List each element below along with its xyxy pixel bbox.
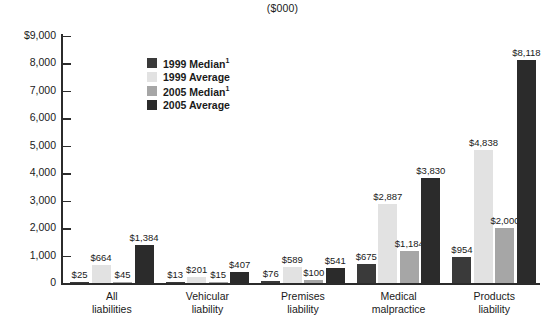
y-axis-label: 7,000 (2, 84, 56, 96)
legend-label: 1999 Average (163, 71, 230, 83)
bar-column: $4,838 (474, 36, 493, 283)
bar-value-label: $589 (282, 254, 303, 265)
bar-column: $541 (326, 36, 345, 283)
x-axis-category-line: liability (248, 303, 358, 316)
bar: $3,830 (421, 178, 440, 283)
bar-value-label: $675 (356, 251, 377, 262)
x-axis-category-label: Allliabilities (57, 290, 167, 315)
chart-title: ($000) (0, 2, 551, 14)
bar: $675 (357, 264, 376, 283)
bar: $76 (261, 281, 280, 283)
bar-column: $25 (70, 36, 89, 283)
bar-value-label: $954 (451, 244, 472, 255)
y-axis-label: 0 (2, 276, 56, 288)
bar: $45 (113, 282, 132, 284)
bar-column: $2,000 (495, 36, 514, 283)
bar-value-label: $201 (186, 264, 207, 275)
bar-column: $45 (113, 36, 132, 283)
bar: $664 (92, 265, 111, 283)
bar-column: $675 (357, 36, 376, 283)
bar-column: $76 (261, 36, 280, 283)
bar-column: $407 (230, 36, 249, 283)
plot-area: $25$664$45$1,384$13$201$15$407$76$589$10… (62, 36, 540, 283)
bar-column: $589 (283, 36, 302, 283)
bar-value-label: $13 (167, 269, 183, 280)
legend-item: 1999 Average (147, 70, 230, 84)
legend-swatch-icon (147, 72, 157, 82)
y-axis-label: 4,000 (2, 166, 56, 178)
x-axis-category-line: Vehicular (152, 290, 262, 303)
x-axis-category-label: Premisesliability (248, 290, 358, 315)
chart-legend: 1999 Median11999 Average2005 Median12005… (147, 56, 230, 112)
bar-value-label: $2,887 (373, 191, 402, 202)
legend-item: 1999 Median1 (147, 56, 230, 70)
bar-value-label: $4,838 (469, 137, 498, 148)
bar: $201 (187, 277, 206, 283)
bar-value-label: $1,184 (395, 238, 424, 249)
bar: $25 (70, 282, 89, 284)
bar: $1,184 (400, 251, 419, 283)
bar: $13 (166, 282, 185, 284)
x-axis-line (61, 283, 540, 285)
legend-item: 2005 Average (147, 98, 230, 112)
bar-column: $664 (92, 36, 111, 283)
y-axis-label: 6,000 (2, 111, 56, 123)
bar: $541 (326, 268, 345, 283)
y-axis-label: 3,000 (2, 194, 56, 206)
bar-column: $8,118 (517, 36, 536, 283)
bar-column: $1,184 (400, 36, 419, 283)
x-axis-category-line: liability (439, 303, 549, 316)
y-axis-labels: $9,0008,0007,0006,0005,0004,0003,0002,00… (0, 0, 56, 326)
bar: $100 (304, 280, 323, 283)
bar: $8,118 (517, 60, 536, 283)
y-axis-label: $9,000 (2, 29, 56, 41)
bar-value-label: $3,830 (416, 165, 445, 176)
bar-value-label: $45 (115, 269, 131, 280)
bar-value-label: $664 (90, 252, 111, 263)
bar: $1,384 (135, 245, 154, 283)
legend-swatch-icon (147, 86, 157, 96)
legend-label: 2005 Average (163, 99, 230, 111)
bar-chart: ($000) $9,0008,0007,0006,0005,0004,0003,… (0, 0, 551, 326)
legend-swatch-icon (147, 100, 157, 110)
legend-swatch-icon (147, 58, 157, 68)
bar-value-label: $76 (263, 268, 279, 279)
bar-value-label: $407 (229, 259, 250, 270)
x-axis-category-label: Productsliability (439, 290, 549, 315)
bar-value-label: $25 (72, 269, 88, 280)
legend-footnote-marker: 1 (225, 57, 229, 64)
y-axis-label: 5,000 (2, 139, 56, 151)
bar-column: $100 (304, 36, 323, 283)
bar-value-label: $541 (325, 255, 346, 266)
bar: $589 (283, 267, 302, 283)
bar: $15 (209, 282, 228, 284)
legend-item: 2005 Median1 (147, 84, 230, 98)
x-axis-category-label: Medicalmalpractice (344, 290, 454, 315)
legend-label: 1999 Median1 (163, 57, 229, 70)
x-axis-category-label: Vehicularliability (152, 290, 262, 315)
x-axis-category-line: malpractice (344, 303, 454, 316)
y-axis-label: 8,000 (2, 56, 56, 68)
y-axis-label: 1,000 (2, 249, 56, 261)
y-axis-label: 2,000 (2, 221, 56, 233)
legend-footnote-marker: 1 (225, 85, 229, 92)
x-axis-category-line: Products (439, 290, 549, 303)
legend-label: 2005 Median1 (163, 85, 229, 98)
x-axis-category-line: liability (152, 303, 262, 316)
bar: $407 (230, 272, 249, 283)
bar-value-label: $2,000 (490, 215, 519, 226)
x-axis-category-line: Premises (248, 290, 358, 303)
x-axis-category-line: All (57, 290, 167, 303)
bar-value-label: $15 (210, 269, 226, 280)
x-axis-category-line: liabilities (57, 303, 167, 316)
bar: $2,000 (495, 228, 514, 283)
bar-column: $3,830 (421, 36, 440, 283)
x-axis-category-line: Medical (344, 290, 454, 303)
bar: $954 (452, 257, 471, 283)
bar-column: $954 (452, 36, 471, 283)
bar-value-label: $1,384 (130, 232, 159, 243)
bar-value-label: $100 (303, 267, 324, 278)
bar-value-label: $8,118 (512, 47, 540, 58)
